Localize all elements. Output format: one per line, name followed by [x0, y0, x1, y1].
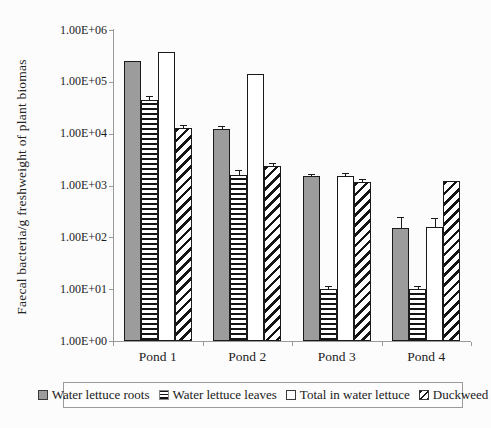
error-bar-cap	[269, 163, 276, 164]
error-bar-stem	[401, 218, 402, 229]
y-tick-label: 1.00E+06	[45, 23, 107, 38]
error-bar-stem	[418, 287, 419, 289]
legend-label-leaves: Water lettuce leaves	[173, 387, 277, 403]
x-axis-line	[109, 341, 471, 342]
y-tick-label: 1.00E+05	[45, 74, 107, 89]
error-bar-cap	[180, 125, 187, 126]
bar-horizontal-stripes-pond-4	[409, 289, 426, 341]
bar-white-pond-3	[337, 176, 354, 341]
white-swatch-icon	[286, 390, 296, 400]
horizontal-stripes-swatch-icon	[159, 390, 169, 400]
legend-item-water-lettuce-roots: Water lettuce roots	[38, 387, 150, 403]
x-axis-tick	[203, 342, 204, 346]
y-tick-label: 1.00E+03	[45, 178, 107, 193]
bar-solid-gray-pond-3	[303, 176, 320, 341]
error-bar-stem	[362, 180, 363, 182]
y-axis-tick	[109, 186, 113, 187]
error-bar-cap	[146, 96, 153, 97]
bar-solid-gray-pond-4	[392, 228, 409, 341]
error-bar-cap	[218, 126, 225, 127]
bar-white-pond-1	[158, 52, 175, 341]
x-category-label: Pond 2	[212, 349, 282, 365]
bar-horizontal-stripes-pond-3	[320, 289, 337, 341]
error-bar-cap	[414, 286, 421, 287]
y-axis-tick	[109, 237, 113, 238]
bar-diagonal-hatch-pond-3	[354, 182, 371, 341]
error-bar-cap	[308, 174, 315, 175]
error-bar-stem	[311, 175, 312, 176]
y-tick-label: 1.00E+01	[45, 282, 107, 297]
y-tick-label: 1.00E+04	[45, 126, 107, 141]
bar-solid-gray-pond-2	[213, 129, 230, 341]
error-bar-cap	[431, 218, 438, 219]
y-axis-tick	[109, 30, 113, 31]
bar-diagonal-hatch-pond-2	[264, 166, 281, 341]
y-axis-line	[113, 29, 114, 342]
error-bar-cap	[235, 170, 242, 171]
error-bar-stem	[183, 126, 184, 128]
x-axis-tick	[113, 342, 114, 346]
x-category-label: Pond 4	[391, 349, 461, 365]
x-axis-tick	[471, 342, 472, 346]
error-bar-cap	[397, 217, 404, 218]
x-axis-tick	[382, 342, 383, 346]
bar-diagonal-hatch-pond-4	[443, 181, 460, 341]
error-bar-cap	[325, 286, 332, 287]
error-bar-stem	[239, 171, 240, 175]
legend-item-duckweed: Duckweed	[419, 387, 489, 403]
error-bar-stem	[273, 164, 274, 166]
legend-item-total-in-water-lettuce: Total in water lettuce	[286, 387, 410, 403]
x-category-label: Pond 1	[123, 349, 193, 365]
y-axis-title: Faecal bacteria/g freshweight of plant b…	[14, 59, 30, 314]
bar-solid-gray-pond-1	[124, 61, 141, 341]
error-bar-stem	[222, 127, 223, 129]
bar-white-pond-2	[247, 74, 264, 341]
bar-diagonal-hatch-pond-1	[175, 128, 192, 341]
y-axis-tick	[109, 134, 113, 135]
error-bar-stem	[345, 174, 346, 176]
y-tick-label: 1.00E+00	[45, 334, 107, 349]
error-bar-cap	[359, 179, 366, 180]
solid-gray-swatch-icon	[38, 390, 48, 400]
bar-chart-figure: Faecal bacteria/g freshweight of plant b…	[0, 0, 491, 428]
error-bar-stem	[328, 287, 329, 289]
y-tick-label: 1.00E+02	[45, 230, 107, 245]
x-category-label: Pond 3	[302, 349, 372, 365]
diagonal-hatch-swatch-icon	[419, 390, 429, 400]
legend-item-water-lettuce-leaves: Water lettuce leaves	[159, 387, 277, 403]
bar-horizontal-stripes-pond-1	[141, 100, 158, 341]
y-axis-tick	[109, 82, 113, 83]
error-bar-stem	[149, 97, 150, 100]
x-axis-tick	[292, 342, 293, 346]
legend-label-total: Total in water lettuce	[300, 387, 410, 403]
error-bar-stem	[435, 219, 436, 228]
error-bar-cap	[342, 173, 349, 174]
bar-horizontal-stripes-pond-2	[230, 175, 247, 341]
legend-label-duckweed: Duckweed	[433, 387, 489, 403]
bar-white-pond-4	[426, 227, 443, 341]
legend: Water lettuce roots Water lettuce leaves…	[63, 382, 463, 408]
legend-label-roots: Water lettuce roots	[52, 387, 150, 403]
y-axis-tick	[109, 289, 113, 290]
